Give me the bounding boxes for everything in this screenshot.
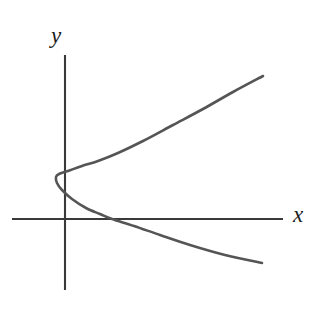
x-axis-label: x [293,203,303,226]
parabola-curve [56,76,263,263]
curve-group [56,76,263,263]
axes-group [12,55,283,290]
plot-canvas [0,0,326,322]
y-axis-label: y [51,24,61,47]
parabola-figure: y x [0,0,326,322]
